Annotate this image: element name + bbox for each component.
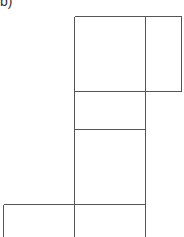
net-diagram <box>0 0 184 237</box>
